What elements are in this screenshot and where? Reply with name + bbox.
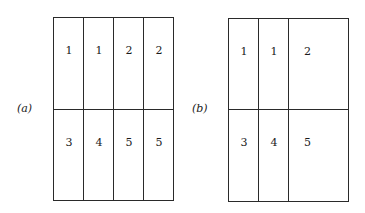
- grid-cell: 4: [84, 110, 114, 200]
- grid-cell: 5: [144, 110, 174, 200]
- grid-cell: 1: [229, 19, 259, 109]
- grid-cell-merged: 5: [289, 110, 349, 200]
- panel-b-grid: 1 1 2 3 4 5: [228, 18, 349, 202]
- grid-cell: 5: [114, 110, 144, 200]
- panel-a-grid: 1 1 2 2 3 4 5 5: [53, 17, 174, 201]
- grid-cell: 4: [259, 110, 289, 200]
- panel-b-label: (b): [192, 103, 208, 115]
- panel-a-label: (a): [17, 103, 32, 115]
- grid-cell: 3: [229, 110, 259, 200]
- grid-cell-merged: 2: [289, 19, 349, 109]
- grid-cell: 1: [259, 19, 289, 109]
- grid-cell: 1: [84, 18, 114, 109]
- grid-cell: 3: [54, 110, 84, 200]
- grid-cell: 2: [144, 18, 174, 109]
- grid-cell: 1: [54, 18, 84, 109]
- grid-cell: 2: [114, 18, 144, 109]
